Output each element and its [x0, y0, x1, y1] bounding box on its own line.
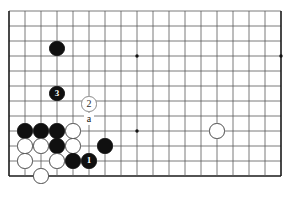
go-stone-black-right-outpost: [97, 138, 112, 153]
stone-move-number: 1: [82, 154, 95, 167]
board-point-label-a: a: [84, 113, 94, 125]
go-diagram-container: 321 a: [0, 0, 293, 198]
star-point: [135, 54, 138, 57]
go-stone-black-move-1: 1: [81, 153, 96, 168]
go-stone-black-wall-a: [17, 123, 32, 138]
stone-move-number: 2: [82, 97, 95, 110]
go-stone-black-move-3: 3: [49, 86, 64, 101]
star-point: [135, 129, 138, 132]
go-stone-black-mid-c: [49, 138, 64, 153]
go-stone-white-mid-d: [65, 138, 80, 153]
stone-move-number: 3: [50, 87, 63, 100]
go-stone-white-low-b: [49, 153, 64, 168]
go-stone-black-wall-c: [49, 123, 64, 138]
go-stone-white-mid-b: [33, 138, 48, 153]
go-stone-black-hoshi-upper: [49, 41, 64, 56]
go-stone-white-move-2: 2: [81, 96, 96, 111]
star-point: [279, 54, 282, 57]
go-stone-white-right-side: [209, 123, 224, 138]
go-stone-white-mid-a: [17, 138, 32, 153]
go-stone-black-wall-b: [33, 123, 48, 138]
go-stone-black-low-c: [65, 153, 80, 168]
go-stone-white-edge-stone: [33, 168, 48, 183]
go-stone-white-low-a: [17, 153, 32, 168]
go-stone-white-cut-a: [65, 123, 80, 138]
